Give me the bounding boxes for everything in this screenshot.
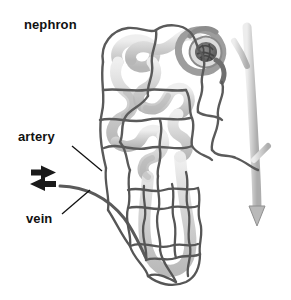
urine-outflow-arrow: [249, 206, 265, 226]
artery-leader-line: [72, 146, 102, 171]
label-vein: vein: [26, 211, 52, 226]
label-nephron: nephron: [24, 17, 77, 32]
nephron-illustration: [0, 0, 291, 300]
artery-inflow-arrow: [31, 166, 56, 180]
nephron-diagram: nephron artery vein: [0, 0, 291, 300]
vein-leader-line: [62, 190, 90, 214]
collecting-duct: [234, 27, 268, 226]
glomerulus: [195, 42, 217, 62]
vein-outflow-arrow: [30, 177, 56, 191]
vein-branch: [60, 186, 146, 258]
efferent-arteriole: [216, 60, 224, 82]
label-artery: artery: [18, 129, 55, 144]
